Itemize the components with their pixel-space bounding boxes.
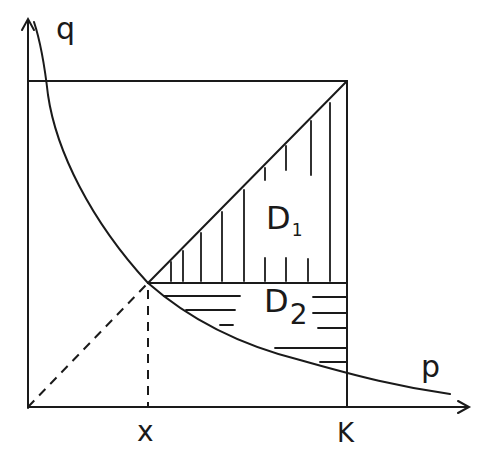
diagram-canvas [0,0,486,455]
d1-hatching [171,103,330,281]
p-axis-label: p [421,352,440,382]
region-d1-label: D1 [266,202,302,234]
region-d1-subscript: 1 [292,220,303,240]
q-axis-label: q [56,14,75,44]
d2-hatching [164,296,347,362]
region-d2-subscript: 2 [290,298,308,331]
hyperbola-curve [34,22,450,394]
region-d1-letter: D [266,199,291,237]
region-d2-label: D2 [264,285,307,317]
diagonal-solid [148,81,347,283]
q-axis [22,19,34,408]
p-axis [28,401,469,413]
x-tick-label: x [137,418,154,446]
region-d2-letter: D [264,282,289,320]
diagonal-dashed [28,285,146,407]
k-tick-label: K [337,420,354,446]
diagram: q p x K D1 D2 [0,0,486,455]
